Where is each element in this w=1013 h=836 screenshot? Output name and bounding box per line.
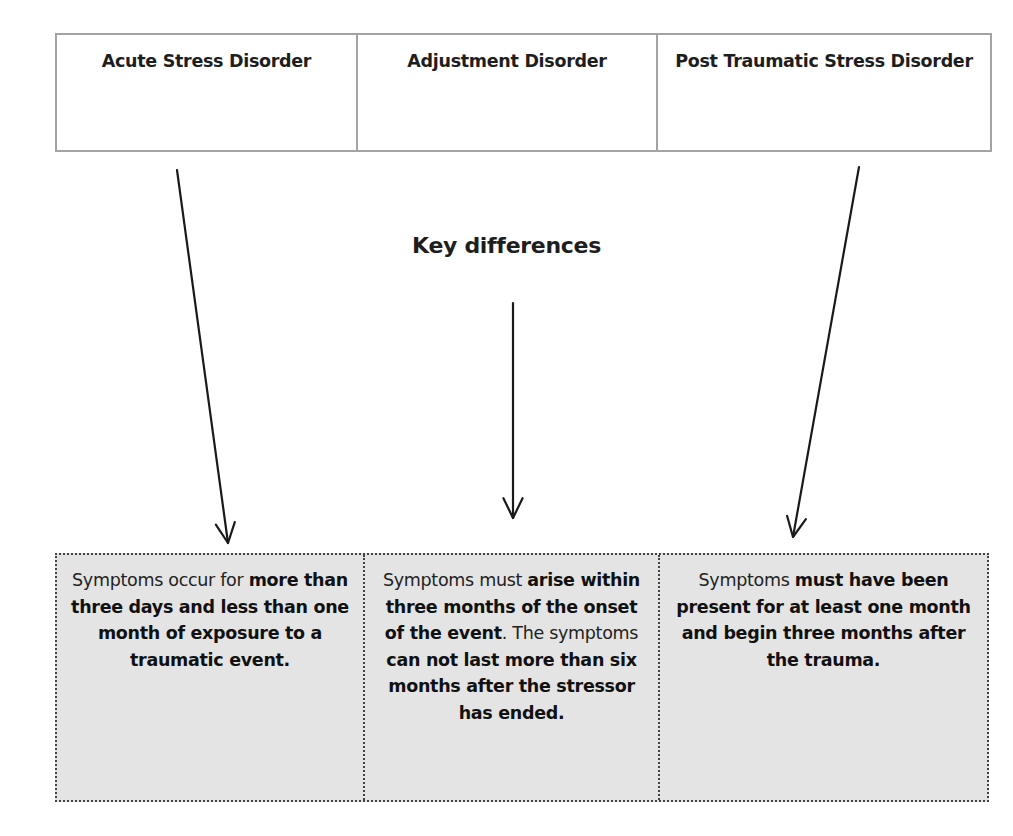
description-text: Symptoms occur for: [72, 570, 249, 590]
ptsd-description: Symptoms must have been present for at l…: [658, 555, 987, 800]
arrow-icon: [177, 170, 235, 543]
description-text: Symptoms must: [383, 570, 527, 590]
emphasized-text: can not last more than six months after …: [386, 650, 636, 723]
adjustment-description: Symptoms must arise within three months …: [363, 555, 658, 800]
arrow-icon: [503, 303, 522, 518]
acute-stress-description: Symptoms occur for more than three days …: [57, 555, 363, 800]
description-text: Symptoms: [699, 570, 795, 590]
arrow-icon: [787, 167, 859, 537]
descriptions-row: Symptoms occur for more than three days …: [55, 553, 989, 802]
description-text: . The symptoms: [502, 623, 638, 643]
